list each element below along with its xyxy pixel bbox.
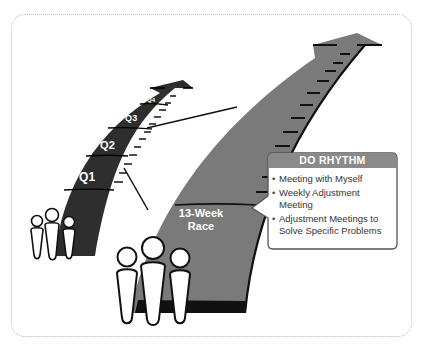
connector-line-bottom <box>124 168 148 210</box>
do-rhythm-callout: DO RHYTHM Meeting with Myself Weekly Adj… <box>268 153 397 249</box>
race-label: 13-Week Race <box>166 207 236 233</box>
race-label-line2: Race <box>166 220 236 233</box>
callout-item: Adjustment Meetings to Solve Specific Pr… <box>272 213 396 237</box>
callout-item: Meeting with Myself <box>272 173 396 185</box>
callout-list: Meeting with Myself Weekly Adjustment Me… <box>272 173 396 239</box>
diagram-canvas: Q1 Q2 Q3 Q4 13-Week Race DO RHYTHM Meeti… <box>0 0 426 357</box>
callout-title: DO RHYTHM <box>268 153 397 168</box>
quarter-label-q3: Q3 <box>125 113 137 123</box>
quarter-label-q2: Q2 <box>100 139 115 151</box>
quarter-label-q4: Q4 <box>147 97 155 103</box>
people-icon-large <box>117 237 190 325</box>
people-icon-small <box>31 209 75 260</box>
quarter-label-q1: Q1 <box>79 170 95 184</box>
race-label-line1: 13-Week <box>166 207 236 220</box>
callout-item: Weekly Adjustment Meeting <box>272 187 396 211</box>
